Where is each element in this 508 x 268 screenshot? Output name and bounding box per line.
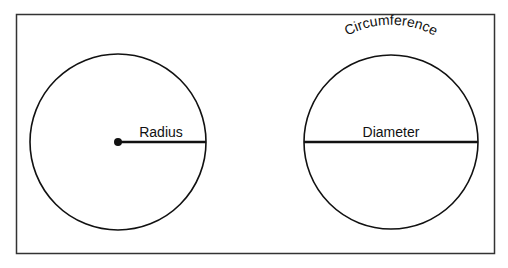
diagram-frame [17, 15, 495, 254]
circle-parts-diagram: Radius Diameter Circumference [0, 0, 508, 268]
radius-label: Radius [139, 124, 183, 140]
diameter-label: Diameter [363, 124, 420, 140]
center-point [114, 138, 122, 146]
